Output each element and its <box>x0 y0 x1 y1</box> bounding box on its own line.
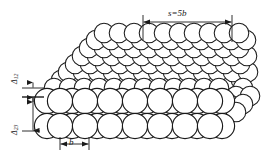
delta-23-symbol: Δ <box>10 130 19 135</box>
label-row-spacing: b <box>69 138 74 147</box>
label-interlayer-12: Δ12 <box>11 74 20 84</box>
terrace-row-back-7 <box>94 23 249 43</box>
label-interlayer-23: Δ23 <box>11 125 20 135</box>
delta-12-subscript: 12 <box>13 74 19 80</box>
delta-23-subscript: 23 <box>13 125 19 131</box>
stepped-surface-diagram <box>0 0 261 154</box>
sphere-lattice <box>34 23 259 138</box>
label-terrace-width: s=5b <box>168 9 187 18</box>
front-face-layer-2 <box>34 113 234 138</box>
delta-12-symbol: Δ <box>10 79 19 84</box>
front-face-layer-1 <box>34 88 234 113</box>
figure-root: s=5b b Δ12 Δ23 <box>0 0 261 154</box>
